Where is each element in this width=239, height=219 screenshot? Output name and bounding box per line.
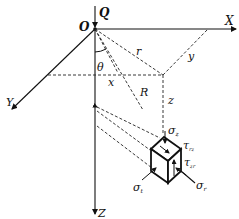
sigma-z-label: σz [168,124,180,137]
sigma-t-label: σt [133,181,144,194]
R-label: R [139,86,148,99]
theta-arc [95,49,106,52]
y-projection-line [163,29,208,75]
theta-label: θ [97,61,104,74]
tau-zr-label: τzr [184,156,196,169]
projection-line-3 [97,126,152,168]
projection-line-2 [97,111,150,150]
sigma-r-label: σr [196,179,208,192]
boussinesq-diagram: Q O X Y Z θ r R x y z σz τrz τzr σt σr [0,0,239,219]
load-label: Q [99,6,110,20]
x-axis-label: X [224,14,234,28]
x-label: x [108,76,115,89]
sigma-r-line [181,171,195,183]
stress-element-cube [151,137,181,183]
r-label: r [136,45,142,58]
y-label: y [187,50,195,63]
origin-label: O [79,20,90,34]
z-axis-label: Z [97,207,106,219]
z-label: z [167,94,174,107]
diagram-stage: Q O X Y Z θ r R x y z σz τrz τzr σt σr [0,0,239,219]
y-axis [12,29,95,109]
r-line [95,29,163,75]
tau-rz-label: τrz [183,139,194,152]
